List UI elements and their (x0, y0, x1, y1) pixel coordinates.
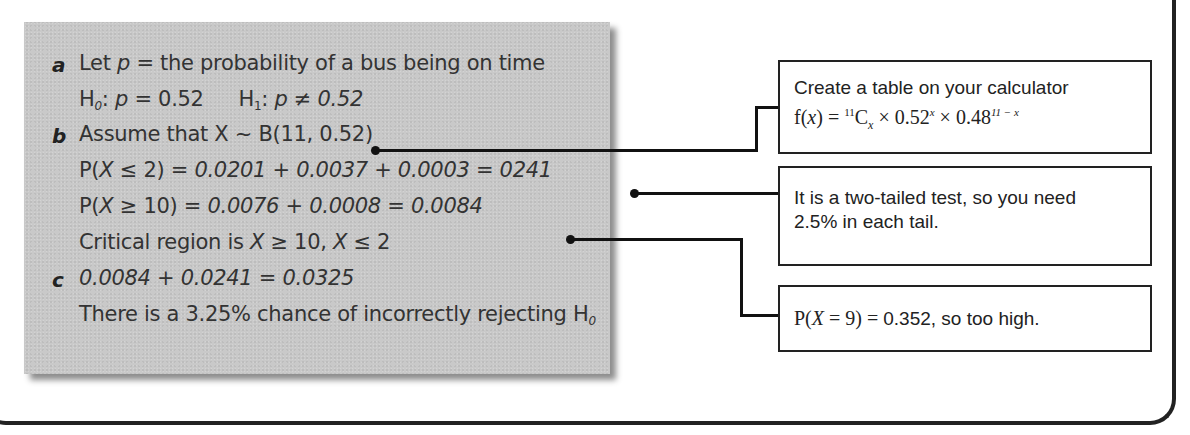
text: P( (79, 158, 99, 182)
text: × 0.48 (935, 106, 991, 128)
text: There is a 3.25% chance of incorrectly r… (79, 302, 588, 326)
solution-line-c1: 0.0084 + 0.0241 = 0.0325 (79, 266, 354, 290)
h1-value: ≠ 0.52 (287, 87, 363, 111)
variable-p: p (274, 87, 287, 111)
text: C (855, 106, 868, 128)
text: × 0.52 (873, 106, 929, 128)
connector-line (571, 238, 742, 241)
solution-line-b2: P(X ≤ 2) = 0.0201 + 0.0037 + 0.0003 = 02… (79, 158, 552, 182)
connector-line (755, 106, 758, 152)
connector-line (740, 314, 780, 317)
text: ≥ 10, (264, 230, 333, 254)
solution-line-b3: P(X ≥ 10) = 0.0076 + 0.0008 = 0.0084 (79, 194, 483, 218)
variable-x: x (807, 106, 816, 128)
variable-x: X (99, 158, 113, 182)
text: ≤ 2) = (113, 158, 194, 182)
text: Critical region is (79, 230, 250, 254)
text: ≤ 2 (347, 230, 390, 254)
h0-label: H (79, 87, 95, 111)
variable-x: X (333, 230, 347, 254)
part-label-a: a (52, 53, 66, 77)
solution-line-b4: Critical region is X ≥ 10, X ≤ 2 (79, 230, 390, 254)
text: ≥ 10) = (113, 194, 207, 218)
connector-line (635, 192, 780, 195)
text: ) = (816, 106, 844, 128)
callout-text: 2.5% in each tail. (794, 210, 1150, 234)
probability-sum: 0.0201 + 0.0037 + 0.0003 = 0241 (194, 158, 551, 182)
part-label-b: b (52, 124, 66, 148)
probability-sum: 0.0076 + 0.0008 = 0.0084 (207, 194, 482, 218)
callout-text: 0.352, so too high. (883, 308, 1039, 329)
connector-line (740, 238, 743, 316)
connector-line (376, 149, 757, 152)
callout-text: Create a table on your calculator (794, 76, 1150, 100)
h1-label: H (238, 87, 254, 111)
solution-line-a1: Let p = the probability of a bus being o… (79, 51, 545, 75)
callout-p-x-equals-9: P(X = 9) = 0.352, so too high. (778, 285, 1152, 352)
text: : (261, 87, 274, 111)
superscript-exponent: 11 − x (991, 106, 1019, 118)
text: = 9) = (824, 307, 883, 329)
superscript: 11 (844, 106, 855, 118)
text: P( (79, 194, 99, 218)
solution-line-b1: Assume that X ~ B(11, 0.52) (79, 122, 373, 146)
h0-subscript: 0 (95, 99, 102, 113)
variable-x: X (250, 230, 264, 254)
callout-two-tailed: It is a two-tailed test, so you need 2.5… (778, 166, 1152, 266)
callout-text: It is a two-tailed test, so you need (794, 186, 1150, 210)
solution-line-c2: There is a 3.25% chance of incorrectly r… (79, 302, 596, 328)
connector-line (755, 106, 780, 109)
variable-x: X (812, 307, 824, 329)
text: = the probability of a bus being on time (130, 51, 545, 75)
variable-x: X (99, 194, 113, 218)
binomial-formula: f(x) = 11Cx × 0.52x × 0.4811 − x (794, 100, 1150, 137)
variable-p: p (115, 87, 128, 111)
solution-line-hypotheses: H0: p = 0.52 H1: p ≠ 0.52 (79, 87, 363, 113)
text: f( (794, 106, 807, 128)
variable-p: p (117, 51, 130, 75)
text: Let (79, 51, 117, 75)
text: : (102, 87, 115, 111)
h0-value: = 0.52 (128, 87, 204, 111)
part-label-c: c (52, 268, 64, 292)
callout-calculator-table: Create a table on your calculator f(x) =… (778, 60, 1152, 154)
text: P( (794, 307, 812, 329)
h0-subscript: 0 (588, 314, 595, 328)
